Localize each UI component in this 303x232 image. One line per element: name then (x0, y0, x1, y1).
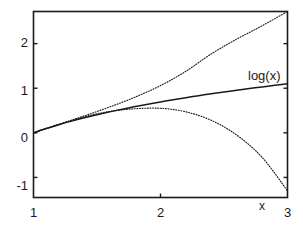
chart-figure: 2 1 0 -1 1 2 3 x log(x) (0, 0, 303, 232)
log-curve-annotation: log(x) (248, 69, 281, 82)
ytick-label-1: 1 (14, 84, 28, 97)
ytick-label-neg1: -1 (8, 179, 28, 192)
plot-canvas (0, 0, 303, 232)
xtick-label-1: 1 (30, 206, 37, 219)
xtick-label-3: 3 (284, 206, 291, 219)
xtick-label-2: 2 (157, 206, 164, 219)
ytick-label-0: 0 (14, 131, 28, 144)
x-axis-label: x (259, 200, 265, 212)
ytick-label-2: 2 (14, 36, 28, 49)
